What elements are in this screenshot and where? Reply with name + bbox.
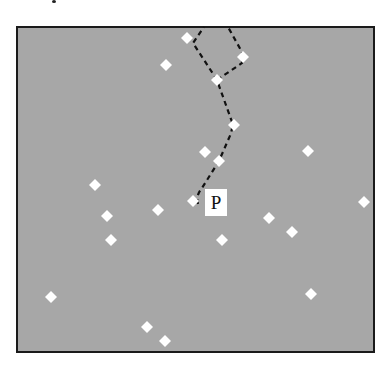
point-path-diagram <box>0 0 383 370</box>
point-label-p: P <box>205 189 227 216</box>
diagram-frame <box>17 27 374 352</box>
